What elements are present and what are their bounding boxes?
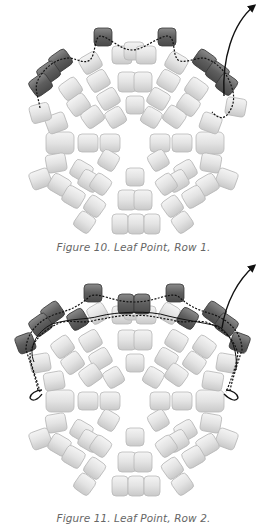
figure-11-caption: Figure 11. Leaf Point, Row 2. [0, 512, 267, 524]
figure-10-leaf-point-row-1 [0, 0, 267, 240]
figure-11-leaf-point-row-2 [0, 262, 267, 504]
light-beads [28, 301, 239, 497]
bead-diagram-row-1 [0, 0, 267, 240]
figure-10-caption: Figure 10. Leaf Point, Row 1. [0, 241, 267, 253]
bead-diagram-row-2 [0, 262, 267, 504]
